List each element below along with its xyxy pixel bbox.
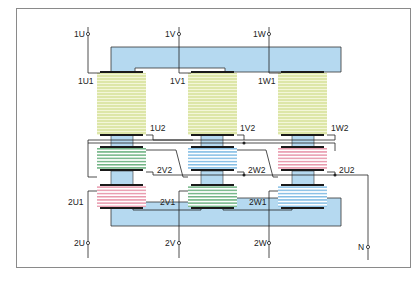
label-1w1: 1W1 — [258, 76, 276, 86]
secondary-coil-lower-u — [97, 186, 146, 207]
label-1w: 1W — [253, 29, 266, 39]
label-1v2: 1V2 — [240, 123, 255, 133]
terminal-1w — [267, 32, 270, 35]
label-1w2: 1W2 — [331, 123, 349, 133]
terminal-1u — [86, 32, 89, 35]
label-2v2: 2V2 — [157, 165, 172, 175]
label-n: N — [358, 242, 364, 252]
secondary-coils-lower — [97, 186, 327, 207]
terminal-2v — [177, 241, 180, 244]
label-1u: 1U — [74, 29, 85, 39]
label-2u1: 2U1 — [68, 197, 84, 207]
transformer-diagram: 1U 1V 1W 1U1 1V1 1W1 1U2 1V2 1W2 2V2 2W2… — [0, 0, 417, 284]
primary-coil-u — [97, 73, 146, 135]
terminal-n — [366, 245, 369, 248]
label-1v1: 1V1 — [170, 76, 185, 86]
primary-coil-w — [278, 73, 327, 135]
label-1u2: 1U2 — [150, 123, 166, 133]
label-1u1: 1U1 — [78, 76, 94, 86]
label-1v: 1V — [165, 29, 176, 39]
label-2w1: 2W1 — [249, 197, 267, 207]
terminal-2u — [86, 241, 89, 244]
secondary-coil-lower-w — [278, 186, 327, 207]
label-2v: 2V — [165, 238, 176, 248]
label-2w: 2W — [254, 238, 267, 248]
secondary-coil-lower-v — [188, 186, 237, 207]
terminal-2w — [267, 241, 270, 244]
label-2u2: 2U2 — [339, 165, 355, 175]
terminal-1v — [177, 32, 180, 35]
primary-coil-v — [188, 73, 237, 135]
label-2u: 2U — [74, 238, 85, 248]
primary-coils — [97, 72, 327, 135]
label-2v1: 2V1 — [160, 197, 175, 207]
label-2w2: 2W2 — [248, 165, 266, 175]
